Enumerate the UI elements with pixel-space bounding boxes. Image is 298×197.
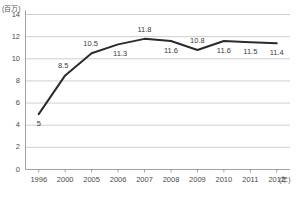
data-point-label: 11.4 [265, 49, 289, 57]
y-axis-tick-label: 4 [4, 121, 20, 129]
x-axis-tick-label: 2000 [52, 176, 78, 184]
data-point-label: 11.6 [212, 47, 236, 55]
y-axis-tick-label: 8 [4, 77, 20, 85]
y-axis-tick-label: 14 [4, 11, 20, 19]
data-point-label: 11.8 [133, 26, 157, 34]
y-axis-tick-label: 10 [4, 55, 20, 63]
x-axis-ticks [39, 170, 277, 173]
line-chart: (百万) (年) 02468101214 1996200020052006200… [0, 0, 298, 197]
y-axis-tick-label: 6 [4, 99, 20, 107]
data-point-label: 10.5 [79, 40, 103, 48]
x-axis-tick-label: 2006 [105, 176, 131, 184]
data-point-label: 11.5 [238, 48, 262, 56]
y-axis-tick-label: 12 [4, 33, 20, 41]
gridlines [26, 15, 291, 148]
data-point-label: 8.5 [51, 62, 75, 70]
x-axis-tick-label: 2007 [132, 176, 158, 184]
y-axis-tick-label: 2 [4, 143, 20, 151]
data-point-label: 11.6 [159, 47, 183, 55]
x-axis-tick-label: 1996 [26, 176, 52, 184]
x-axis-tick-label: 2011 [237, 176, 263, 184]
x-axis-tick-label: 2005 [79, 176, 105, 184]
x-axis-tick-label: 2010 [211, 176, 237, 184]
data-point-label: 11.3 [108, 50, 132, 58]
data-point-label: 5 [27, 120, 51, 128]
data-point-label: 10.8 [185, 37, 209, 45]
x-axis-tick-label: 2008 [158, 176, 184, 184]
x-axis-tick-label: 2009 [184, 176, 210, 184]
y-axis-tick-label: 0 [4, 166, 20, 174]
x-axis-tick-label: 2012 [264, 176, 290, 184]
